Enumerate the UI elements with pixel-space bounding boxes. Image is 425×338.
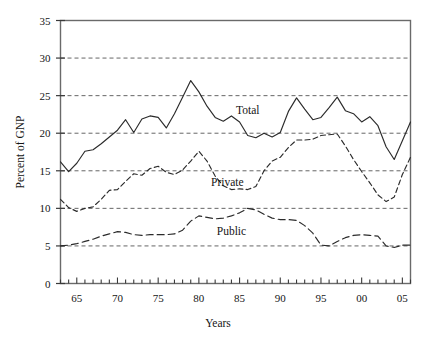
- series-annotations: TotalPrivatePublic: [211, 104, 259, 237]
- x-axis-title: Years: [205, 317, 231, 329]
- plot-frame: [61, 21, 411, 284]
- x-tick-label-80: 80: [193, 292, 205, 304]
- y-tick-label-15: 15: [40, 165, 52, 177]
- x-tick-label-90: 90: [275, 292, 287, 304]
- x-tick-label-75: 75: [153, 292, 165, 304]
- series-label-total: Total: [236, 104, 259, 116]
- y-tick-label-0: 0: [45, 278, 51, 290]
- y-tick-label-10: 10: [40, 202, 52, 214]
- y-tick-label-35: 35: [40, 15, 52, 27]
- y-tick-label-20: 20: [40, 127, 52, 139]
- gridlines: [61, 58, 411, 246]
- y-axis-tick-labels: 05101520253035: [40, 15, 52, 290]
- chart-container: 05101520253035 657075808590950005 TotalP…: [0, 0, 425, 338]
- axis-ticks: [56, 21, 411, 284]
- x-tick-label-00: 00: [356, 292, 368, 304]
- x-tick-label-65: 65: [71, 292, 83, 304]
- series-line-total: [61, 81, 411, 172]
- y-tick-label-25: 25: [40, 90, 52, 102]
- x-tick-label-05: 05: [397, 292, 409, 304]
- series-label-private: Private: [211, 176, 244, 188]
- y-tick-label-30: 30: [40, 52, 52, 64]
- x-tick-label-70: 70: [112, 292, 124, 304]
- x-tick-label-95: 95: [315, 292, 327, 304]
- plot-border: [61, 21, 411, 284]
- line-chart: 05101520253035 657075808590950005 TotalP…: [0, 0, 425, 338]
- x-axis-tick-labels: 657075808590950005: [71, 292, 408, 304]
- series-label-public: Public: [217, 225, 246, 237]
- y-axis-title: Percent of GNP: [14, 116, 26, 189]
- x-tick-label-85: 85: [234, 292, 246, 304]
- y-tick-label-5: 5: [45, 240, 51, 252]
- series-line-private: [61, 134, 411, 211]
